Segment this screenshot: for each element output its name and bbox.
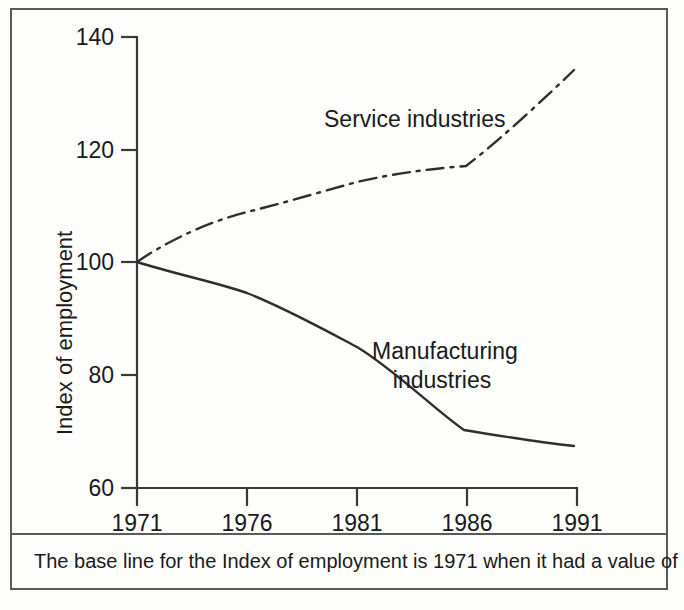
figure-caption-note: The base line for the Index of employmen… — [34, 550, 654, 573]
series-line-service-industries — [137, 70, 574, 262]
chart-figure: 140 120 100 80 60 1971 1976 1981 1986 19… — [0, 0, 684, 610]
y-tick-label-120: 120 — [50, 137, 114, 164]
series-annotation-manufacturing-industries: Manufacturing industries — [372, 337, 512, 395]
y-axis-title: Index of employment — [52, 231, 78, 435]
y-tick-label-140: 140 — [50, 24, 114, 51]
caption-divider — [12, 533, 666, 535]
series-annotation-service-industries: Service industries — [324, 105, 506, 134]
manufacturing-label-line-2: industries — [393, 367, 491, 393]
y-tick-label-60: 60 — [50, 475, 114, 502]
manufacturing-label-line-1: Manufacturing — [372, 338, 518, 364]
